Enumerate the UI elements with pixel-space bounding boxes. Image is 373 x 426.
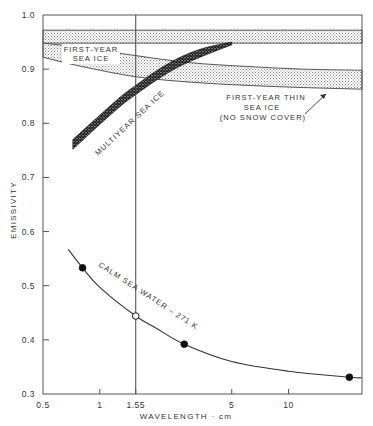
svg-text:SEA ICE: SEA ICE: [244, 103, 281, 112]
x-tick-label: 1: [97, 400, 102, 410]
y-tick-label: 1.0: [22, 10, 35, 20]
x-tick-label: 0.5: [36, 400, 49, 410]
y-tick-label: 0.4: [22, 335, 35, 345]
band-first-year-thick-sea-ice-upper-band: [43, 30, 362, 43]
y-tick-label: 0.8: [22, 118, 35, 128]
y-axis-title: EMISSIVITY: [9, 181, 18, 239]
emissivity-chart: 1.00.90.80.70.60.50.40.3 0.511.55510 EMI…: [0, 0, 373, 426]
filled-circle-marker-icon: [181, 341, 188, 348]
svg-text:SEA ICE: SEA ICE: [73, 54, 110, 63]
y-tick-label: 0.3: [22, 389, 35, 399]
y-tick-label: 0.7: [22, 172, 35, 182]
label-calm-sea-water: CALM SEA WATER – 271 K: [97, 260, 200, 331]
x-tick-label: 10: [283, 400, 293, 410]
y-tick-label: 0.9: [22, 64, 35, 74]
y-axis: 1.00.90.80.70.60.50.40.3: [22, 10, 49, 399]
open-circle-marker-icon: [132, 313, 139, 320]
x-axis: 0.511.55510: [36, 389, 293, 410]
y-tick-label: 0.5: [22, 281, 35, 291]
x-axis-title: WAVELENGTH · cm: [140, 412, 232, 421]
x-tick-label: 1.55: [126, 400, 145, 410]
y-tick-label: 0.6: [22, 227, 35, 237]
svg-text:(NO SNOW COVER): (NO SNOW COVER): [220, 113, 306, 122]
x-tick-label: 5: [229, 400, 234, 410]
svg-text:FIRST-YEAR THIN: FIRST-YEAR THIN: [226, 93, 305, 102]
filled-circle-marker-icon: [346, 374, 353, 381]
label-first-year-sea-ice: FIRST-YEAR SEA ICE: [62, 44, 120, 64]
svg-text:FIRST-YEAR: FIRST-YEAR: [64, 45, 119, 54]
filled-circle-marker-icon: [79, 265, 86, 272]
label-first-year-thin-sea-ice: FIRST-YEAR THIN SEA ICE (NO SNOW COVER): [220, 93, 326, 122]
